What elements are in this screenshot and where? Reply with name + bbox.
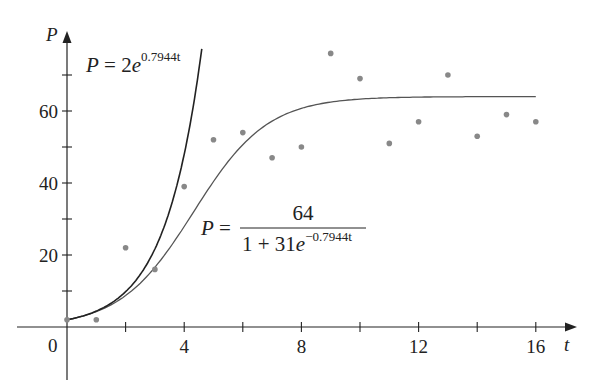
data-point bbox=[152, 267, 158, 273]
y-axis-label: P bbox=[45, 24, 58, 45]
data-point bbox=[240, 130, 246, 136]
chart: 481216204060 P t 0 P = 2e0.7944t P = 64 … bbox=[0, 0, 596, 388]
log-formula-denom-prefix: 1 + 31 bbox=[242, 232, 296, 256]
logistic-formula: P = 64 1 + 31e−0.7944t bbox=[200, 201, 366, 256]
log-formula-base: e bbox=[296, 232, 305, 256]
data-point bbox=[533, 119, 539, 125]
data-point bbox=[357, 76, 363, 82]
y-tick-label: 20 bbox=[39, 245, 58, 266]
exp-formula-base: e bbox=[132, 53, 141, 77]
data-point bbox=[94, 317, 100, 323]
x-axis-label: t bbox=[564, 334, 570, 355]
svg-text:P = 2e0.7944t: P = 2e0.7944t bbox=[85, 49, 181, 77]
log-formula-numerator: 64 bbox=[293, 201, 315, 225]
exponential-curve bbox=[67, 49, 202, 320]
x-tick-label: 4 bbox=[179, 336, 189, 357]
y-tick-label: 40 bbox=[39, 173, 58, 194]
x-tick-label: 12 bbox=[409, 336, 428, 357]
exp-formula-eq: = 2 bbox=[99, 53, 132, 77]
exp-formula-exponent: 0.7944t bbox=[141, 49, 181, 64]
data-point bbox=[504, 112, 510, 118]
x-tick-label: 8 bbox=[297, 336, 307, 357]
data-point bbox=[387, 141, 393, 147]
log-formula-lhs: P bbox=[200, 216, 214, 240]
x-axis-arrow-icon bbox=[565, 323, 577, 332]
log-formula-exponent: −0.7944t bbox=[305, 229, 352, 244]
exp-formula-lhs: P bbox=[85, 53, 99, 77]
x-tick-label: 16 bbox=[526, 336, 545, 357]
log-formula-eq: = bbox=[214, 216, 231, 240]
svg-text:P =: P = bbox=[200, 216, 231, 240]
data-point bbox=[269, 155, 275, 161]
origin-label: 0 bbox=[48, 335, 58, 356]
tick-labels: 481216204060 bbox=[39, 101, 545, 357]
data-point bbox=[299, 144, 305, 150]
data-point bbox=[474, 133, 480, 139]
svg-text:1 + 31e−0.7944t: 1 + 31e−0.7944t bbox=[242, 229, 352, 256]
data-point bbox=[181, 184, 187, 190]
data-point bbox=[64, 317, 70, 323]
data-point bbox=[416, 119, 422, 125]
y-axis-arrow-icon bbox=[63, 31, 72, 43]
data-point bbox=[123, 245, 129, 251]
data-point bbox=[211, 137, 217, 143]
exponential-formula: P = 2e0.7944t bbox=[85, 49, 181, 77]
y-tick-label: 60 bbox=[39, 101, 58, 122]
data-point bbox=[445, 72, 451, 78]
data-point bbox=[328, 51, 334, 57]
